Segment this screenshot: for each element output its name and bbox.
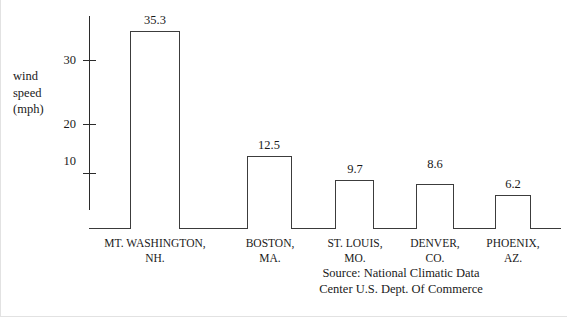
category-label-phoenix: PHOENIX, AZ. — [453, 236, 567, 265]
y-tick-label-30: 30 — [1, 54, 76, 66]
bar-value-st-louis: 9.7 — [325, 163, 385, 176]
bar-chart-figure: wind speed (mph) 30 20 10 35.3 MT. WASHI… — [0, 0, 567, 317]
y-tick-mark-30 — [83, 60, 96, 61]
y-tick-label-20-wrap: 20 — [1, 118, 76, 130]
category-label-phoenix-line-2: AZ. — [453, 251, 567, 266]
bar-mt-washington — [130, 31, 180, 229]
y-axis-title-line-2: speed — [13, 85, 83, 102]
y-axis-title-line-3: (mph) — [13, 101, 83, 118]
y-axis-title: wind speed (mph) — [13, 68, 83, 118]
bar-boston — [247, 156, 292, 229]
bar-value-boston: 12.5 — [239, 139, 299, 152]
y-tick-label-20: 20 — [1, 118, 76, 130]
y-tick-label-10: 10 — [1, 155, 76, 167]
source-note-line-2: Center U.S. Dept. Of Commerce — [276, 281, 526, 297]
bar-st-louis — [335, 180, 374, 229]
source-note: Source: National Climatic Data Center U.… — [276, 265, 526, 297]
y-axis-title-line-1: wind — [13, 68, 83, 85]
bar-phoenix — [495, 195, 531, 229]
category-label-phoenix-line-1: PHOENIX, — [453, 236, 567, 251]
y-axis-line — [89, 16, 90, 210]
y-tick-mark-10 — [83, 173, 96, 174]
y-tick-mark-20 — [83, 124, 96, 125]
bar-value-denver: 8.6 — [405, 158, 465, 171]
bar-value-phoenix: 6.2 — [483, 178, 543, 191]
bar-value-mt-washington: 35.3 — [125, 14, 185, 27]
y-tick-label-10-wrap: 10 — [1, 155, 76, 167]
bar-denver — [416, 184, 454, 229]
source-note-line-1: Source: National Climatic Data — [276, 265, 526, 281]
y-tick-label-30-wrap: 30 — [1, 54, 76, 66]
